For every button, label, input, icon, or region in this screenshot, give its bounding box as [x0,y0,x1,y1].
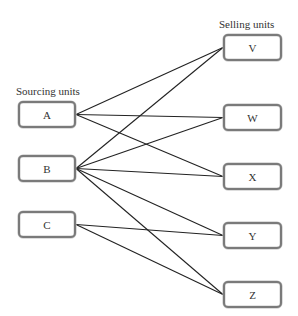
selling-unit-x: X [223,163,282,190]
connection-a-v [76,48,223,115]
sourcing-selling-diagram: Sourcing units Selling units ABC VWXYZ [0,0,298,316]
sourcing-units-label: Sourcing units [16,85,80,97]
connection-c-y [76,225,223,236]
connection-c-z [76,225,223,295]
selling-unit-z: Z [223,281,282,308]
selling-units-label: Selling units [219,18,274,30]
connection-b-y [76,169,223,236]
connection-b-z [76,169,223,295]
sourcing-unit-b: B [18,155,76,182]
connection-a-x [76,115,223,177]
sourcing-unit-c: C [18,211,76,238]
connection-b-w [76,118,223,169]
sourcing-unit-a: A [18,101,76,128]
selling-unit-y: Y [223,222,282,249]
connection-b-v [76,48,223,169]
selling-unit-v: V [223,34,282,61]
connection-b-x [76,169,223,177]
selling-unit-w: W [223,104,282,131]
connection-a-w [76,115,223,118]
